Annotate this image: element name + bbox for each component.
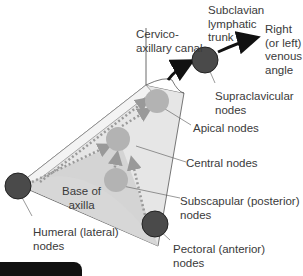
subscapular-node bbox=[104, 168, 128, 192]
label-venous-angle: Right (or left) venous angle bbox=[265, 23, 302, 77]
humeral-node bbox=[5, 173, 31, 199]
pectoral-node bbox=[142, 211, 168, 237]
label-central: Central nodes bbox=[186, 157, 258, 171]
label-humeral: Humeral (lateral) nodes bbox=[33, 226, 119, 253]
black-tab bbox=[0, 262, 82, 276]
label-base-of-axilla: Base of axilla bbox=[62, 185, 101, 212]
label-pectoral: Pectoral (anterior) nodes bbox=[173, 243, 265, 270]
label-cervico-axillary-canal: Cervico- axillary canal bbox=[136, 28, 202, 55]
label-subclavian-trunk: Subclavian lymphatic trunk bbox=[208, 4, 264, 45]
apical-node bbox=[145, 89, 169, 113]
label-subscapular: Subscapular (posterior) nodes bbox=[180, 195, 300, 222]
label-apical: Apical nodes bbox=[193, 122, 259, 136]
central-node bbox=[106, 127, 130, 151]
arrow-to-supraclavicular bbox=[168, 62, 190, 80]
label-supraclavicular: Supraclavicular nodes bbox=[215, 90, 294, 117]
